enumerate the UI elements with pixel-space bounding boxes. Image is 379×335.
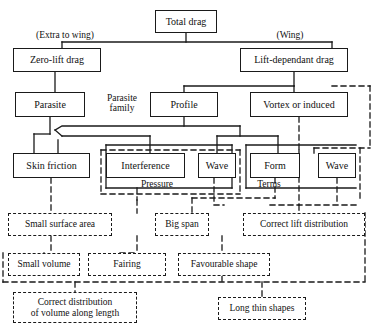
node-wave_right[interactable]: Wave (318, 153, 356, 178)
wire-bracket-lower (55, 130, 62, 136)
node-interference[interactable]: Interference (106, 153, 185, 178)
node-small_surf[interactable]: Small surface area (8, 213, 112, 236)
node-total_drag[interactable]: Total drag (155, 10, 217, 33)
node-small_vol[interactable]: Small volume (8, 253, 80, 276)
node-big_span[interactable]: Big span (155, 213, 209, 236)
annotation-extra_to_wing: (Extra to wing) (21, 30, 109, 40)
node-parasite[interactable]: Parasite (15, 92, 85, 117)
annotation-wing: (Wing) (268, 30, 312, 40)
node-wave_left[interactable]: Wave (198, 153, 236, 178)
drag-breakdown-diagram: Total dragZero-lift dragLift-dependant d… (0, 0, 379, 335)
node-zero_lift[interactable]: Zero-lift drag (13, 48, 101, 72)
annotation-pressure: Pressure (133, 179, 181, 189)
node-fav_shape[interactable]: Favourable shape (178, 253, 270, 276)
node-fairing[interactable]: Fairing (88, 253, 166, 276)
node-form[interactable]: Form (250, 153, 300, 178)
node-corr_lift[interactable]: Correct lift distribution (243, 213, 365, 236)
wire-profile-bracket-top (55, 126, 240, 130)
node-lift_dep[interactable]: Lift-dependant drag (240, 48, 348, 72)
node-profile[interactable]: Profile (150, 92, 218, 117)
node-skin_friction[interactable]: Skin friction (13, 153, 90, 178)
annotation-terms: Terms (249, 179, 289, 189)
node-corr_dist[interactable]: Correct distributionof volume along leng… (13, 292, 137, 323)
node-long_thin[interactable]: Long thin shapes (218, 297, 306, 320)
annotation-parasite_family: Parasitefamily (98, 93, 146, 114)
node-vortex[interactable]: Vortex or induced (250, 92, 348, 117)
